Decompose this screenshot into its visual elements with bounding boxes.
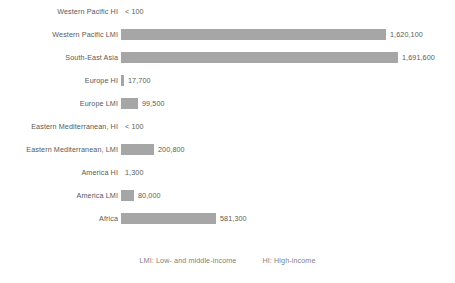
bar-value-label: 1,620,100: [386, 31, 423, 38]
category-label: America HI: [0, 169, 118, 176]
category-label: Western Pacific HI: [0, 8, 118, 15]
bar: [121, 144, 154, 155]
category-label: Africa: [0, 215, 118, 222]
bar-value-label: 200,800: [154, 146, 185, 153]
bar-zone: 200,800: [118, 144, 455, 155]
category-label: Europe HI: [0, 77, 118, 84]
bar-zone: 1,620,100: [118, 29, 455, 40]
bar-row: Eastern Mediterranean, HI < 100: [0, 115, 455, 138]
bar-row: America LMI 80,000: [0, 184, 455, 207]
bar-zone: 1,300: [118, 169, 455, 176]
bar-value-label: 17,700: [124, 77, 151, 84]
bar-value-label: < 100: [121, 123, 144, 130]
category-label: Western Pacific LMI: [0, 31, 118, 38]
bar-zone: 80,000: [118, 190, 455, 201]
bar-value-label: 80,000: [134, 192, 161, 199]
bar-value-label: < 100: [121, 8, 144, 15]
bar-zone: 1,691,600: [118, 52, 455, 63]
bar-value-label: 99,500: [138, 100, 165, 107]
bar-row: Eastern Mediterranean, LMI 200,800: [0, 138, 455, 161]
legend-entry-lmi: LMI: Low- and middle-income: [139, 256, 236, 265]
bar-chart: Western Pacific HI < 100 Western Pacific…: [0, 0, 455, 283]
bar-row: Western Pacific LMI 1,620,100: [0, 23, 455, 46]
legend-entry-hi: HI: High-income: [262, 256, 315, 265]
bar: [121, 190, 134, 201]
bar: [121, 52, 398, 63]
bar-zone: 99,500: [118, 98, 455, 109]
bar: [121, 98, 138, 109]
bar-zone: < 100: [118, 123, 455, 130]
bar-row: South-East Asia 1,691,600: [0, 46, 455, 69]
category-label: Eastern Mediterranean, HI: [0, 123, 118, 130]
category-label: America LMI: [0, 192, 118, 199]
bar-row: America HI 1,300: [0, 161, 455, 184]
bar-value-label: 581,300: [216, 215, 247, 222]
bar-row: Africa 581,300: [0, 207, 455, 230]
category-label: Eastern Mediterranean, LMI: [0, 146, 118, 153]
bar-zone: 17,700: [118, 75, 455, 86]
bar-row: Europe LMI 99,500: [0, 92, 455, 115]
bar-row: Western Pacific HI < 100: [0, 0, 455, 23]
bar: [121, 213, 216, 224]
bar-zone: < 100: [118, 8, 455, 15]
bar-value-label: 1,300: [121, 169, 144, 176]
bar: [121, 29, 386, 40]
category-label: Europe LMI: [0, 100, 118, 107]
category-label: South-East Asia: [0, 54, 118, 61]
bar-value-label: 1,691,600: [398, 54, 435, 61]
bar-zone: 581,300: [118, 213, 455, 224]
plot-area: Western Pacific HI < 100 Western Pacific…: [0, 0, 455, 252]
bar-row: Europe HI 17,700: [0, 69, 455, 92]
chart-legend: LMI: Low- and middle-income HI: High-inc…: [0, 256, 455, 265]
